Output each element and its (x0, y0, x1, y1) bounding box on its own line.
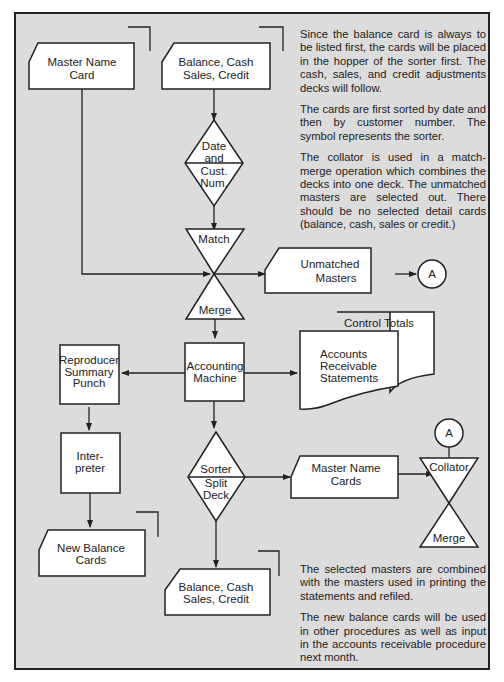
collator-label: Collator (429, 461, 469, 473)
note-bottom: The selected masters are combined with t… (300, 563, 486, 673)
svg-text:Masters: Masters (316, 272, 357, 284)
note-top: Since the balance card is always to be l… (300, 28, 486, 240)
new-balance-cards-label: New Balance (57, 542, 125, 554)
balance-cash-bottom-label: Balance, Cash (179, 581, 254, 593)
ar-statements-label: Accounts (320, 348, 368, 360)
connector-a-in: A (445, 427, 453, 439)
svg-text:preter: preter (75, 462, 105, 474)
merge-bottom-label: Merge (433, 532, 466, 544)
svg-text:Cards: Cards (76, 554, 107, 566)
svg-text:Statements: Statements (320, 372, 378, 384)
control-totals-label: Control Totals (344, 317, 414, 329)
merge-label: Merge (199, 304, 232, 316)
master-name-card-label: Master Name (47, 56, 116, 68)
svg-text:Receivable: Receivable (320, 360, 377, 372)
card-shape (265, 248, 371, 293)
sort-date-label: Date (202, 140, 226, 152)
sorter-split-label: Sorter (200, 463, 231, 475)
connector-a-out: A (428, 268, 436, 280)
svg-text:Deck: Deck (203, 489, 229, 501)
master-name-cards-label: Master Name (311, 462, 380, 474)
svg-text:Num.: Num. (200, 177, 227, 189)
accounting-machine-label: Accounting (187, 360, 244, 372)
svg-text:Split: Split (205, 477, 228, 489)
svg-text:Sales, Credit: Sales, Credit (183, 593, 250, 605)
svg-text:Punch: Punch (73, 377, 106, 389)
svg-text:Cust.: Cust. (201, 165, 228, 177)
reproducer-label: Reproducer (59, 354, 119, 366)
match-label: Match (198, 233, 229, 245)
svg-text:Card: Card (70, 69, 95, 81)
svg-text:Cards: Cards (331, 475, 362, 487)
unmatched-masters-label: Unmatched (301, 258, 360, 270)
svg-text:Sales, Credit: Sales, Credit (183, 69, 250, 81)
svg-text:Machine: Machine (193, 372, 236, 384)
interpreter-label: Inter- (77, 450, 104, 462)
svg-text:and: and (204, 152, 223, 164)
balance-cash-top-label: Balance, Cash (179, 56, 254, 68)
